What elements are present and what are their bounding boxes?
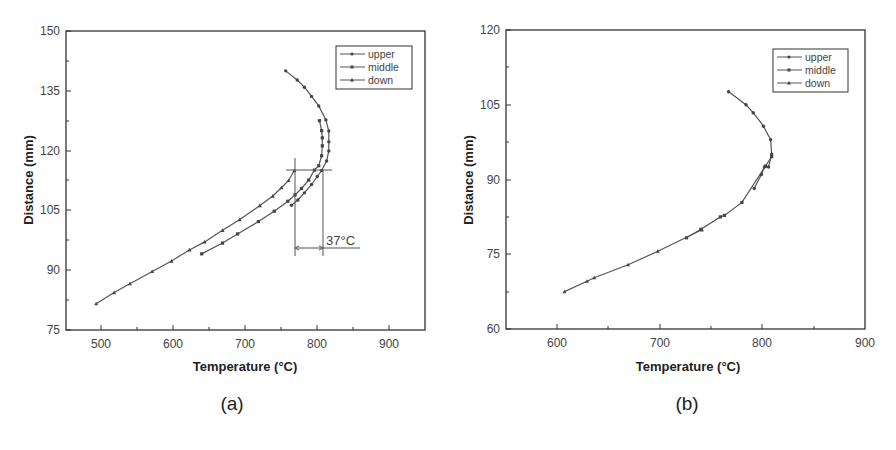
x-axis-title-a: Temperature (°C) <box>193 359 298 374</box>
y-tick-labels-b: 60 75 90 105 120 <box>480 23 500 336</box>
circle-marker-icon <box>769 138 772 141</box>
series-group-b <box>562 90 773 293</box>
square-marker-icon <box>770 155 773 158</box>
circle-marker-icon <box>317 104 320 107</box>
square-marker-icon <box>236 232 239 235</box>
figure: 75 90 105 120 135 150 500 600 700 800 90… <box>0 0 896 450</box>
square-marker-icon <box>764 164 767 167</box>
x-tick-label: 700 <box>650 336 670 350</box>
legend-b: upper middle down <box>773 49 848 92</box>
y-tick-label: 90 <box>47 263 61 277</box>
y-ticks-a <box>66 31 71 330</box>
x-ticks-b <box>557 324 814 329</box>
square-marker-icon <box>320 129 323 132</box>
series-line-upper <box>729 92 772 189</box>
y-tick-label: 120 <box>480 23 500 37</box>
x-tick-label: 600 <box>547 336 567 350</box>
circle-marker-icon <box>284 69 287 72</box>
circle-marker-icon <box>327 140 330 143</box>
x-tick-label: 600 <box>163 337 183 351</box>
panel-label-a: (a) <box>220 393 243 414</box>
legend-label-upper: upper <box>805 51 832 63</box>
x-tick-labels-b: 600 700 800 900 <box>547 336 875 350</box>
square-marker-icon <box>320 154 323 157</box>
x-tick-label: 800 <box>307 337 327 351</box>
circle-marker-icon <box>295 78 298 81</box>
y-tick-label: 105 <box>40 203 60 217</box>
square-marker-icon <box>300 187 303 190</box>
series-line-middle <box>687 157 772 238</box>
circle-marker-icon <box>753 187 756 190</box>
x-tick-label: 700 <box>235 337 255 351</box>
legend-label-middle: middle <box>805 64 836 76</box>
y-axis-title-a: Distance (mm) <box>21 135 36 225</box>
square-marker-icon <box>321 136 324 139</box>
legend-a: upper middle down <box>336 46 412 89</box>
x-tick-labels-a: 500 600 700 800 900 <box>91 337 399 351</box>
series-line-middle <box>202 121 323 254</box>
x-tick-label: 800 <box>752 336 772 350</box>
x-tick-label: 900 <box>379 337 399 351</box>
circle-marker-icon <box>310 95 313 98</box>
circle-marker-icon <box>296 198 299 201</box>
x-axis-title-b: Temperature (°C) <box>636 359 741 374</box>
square-marker-icon <box>351 66 354 69</box>
square-marker-icon <box>788 69 791 72</box>
chart-a: 75 90 105 120 135 150 500 600 700 800 90… <box>21 24 425 414</box>
y-tick-label: 105 <box>480 98 500 112</box>
chart-b: 60 75 90 105 120 600 700 800 900 Tempera… <box>461 23 875 414</box>
square-marker-icon <box>221 241 224 244</box>
legend-label-down: down <box>805 77 830 89</box>
circle-marker-icon <box>303 86 306 89</box>
square-marker-icon <box>200 252 203 255</box>
circle-marker-icon <box>327 129 330 132</box>
y-tick-label: 120 <box>40 144 60 158</box>
y-tick-label: 90 <box>487 173 501 187</box>
square-marker-icon <box>723 214 726 217</box>
circle-marker-icon <box>325 159 328 162</box>
panel-label-b: (b) <box>675 393 698 414</box>
series-line-down <box>565 230 702 292</box>
y-tick-label: 75 <box>487 247 501 261</box>
square-marker-icon <box>273 210 276 213</box>
circle-marker-icon <box>316 175 319 178</box>
circle-marker-icon <box>751 111 754 114</box>
legend-label-down: down <box>368 74 393 86</box>
circle-marker-icon <box>310 183 313 186</box>
circle-marker-icon <box>767 165 770 168</box>
y-ticks-b <box>506 30 511 329</box>
series-line-down <box>96 171 294 304</box>
square-marker-icon <box>318 119 321 122</box>
y-tick-labels-a: 75 90 105 120 135 150 <box>40 24 60 337</box>
square-marker-icon <box>257 220 260 223</box>
y-tick-label: 135 <box>40 84 60 98</box>
square-marker-icon <box>321 144 324 147</box>
circle-marker-icon <box>727 90 730 93</box>
y-tick-label: 150 <box>40 24 60 38</box>
y-tick-label: 60 <box>487 322 501 336</box>
legend-label-upper: upper <box>368 48 395 60</box>
x-tick-label: 500 <box>91 337 111 351</box>
circle-marker-icon <box>303 191 306 194</box>
circle-marker-icon <box>327 149 330 152</box>
square-marker-icon <box>317 164 320 167</box>
x-tick-label: 900 <box>855 336 875 350</box>
circle-marker-icon <box>350 52 353 55</box>
y-axis-title-b: Distance (mm) <box>461 135 476 225</box>
circle-marker-icon <box>324 118 327 121</box>
square-marker-icon <box>740 201 743 204</box>
square-marker-icon <box>719 215 722 218</box>
square-marker-icon <box>307 179 310 182</box>
circle-marker-icon <box>290 204 293 207</box>
x-ticks-a <box>101 325 389 330</box>
circle-marker-icon <box>787 55 790 58</box>
square-marker-icon <box>286 200 289 203</box>
circle-marker-icon <box>762 124 765 127</box>
legend-label-middle: middle <box>368 61 399 73</box>
annotation-label-37c: 37°C <box>326 233 355 248</box>
y-tick-label: 75 <box>47 323 61 337</box>
circle-marker-icon <box>744 103 747 106</box>
